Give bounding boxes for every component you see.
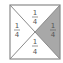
svg-text:4: 4 <box>33 48 38 56</box>
svg-text:4: 4 <box>33 18 38 26</box>
fraction-left: 1 4 <box>14 22 20 39</box>
fraction-right: 1 4 <box>50 22 56 39</box>
shaded-right-quarter <box>35 5 60 59</box>
fraction-bottom: 1 4 <box>32 38 38 56</box>
svg-text:4: 4 <box>51 31 56 39</box>
svg-text:4: 4 <box>15 31 20 39</box>
svg-text:1: 1 <box>51 22 55 30</box>
svg-text:1: 1 <box>15 22 19 30</box>
fraction-top: 1 4 <box>32 9 38 26</box>
svg-text:1: 1 <box>33 9 37 17</box>
quartered-square-diagram: 1 4 1 4 1 4 1 4 <box>0 0 63 63</box>
svg-text:1: 1 <box>33 38 37 46</box>
